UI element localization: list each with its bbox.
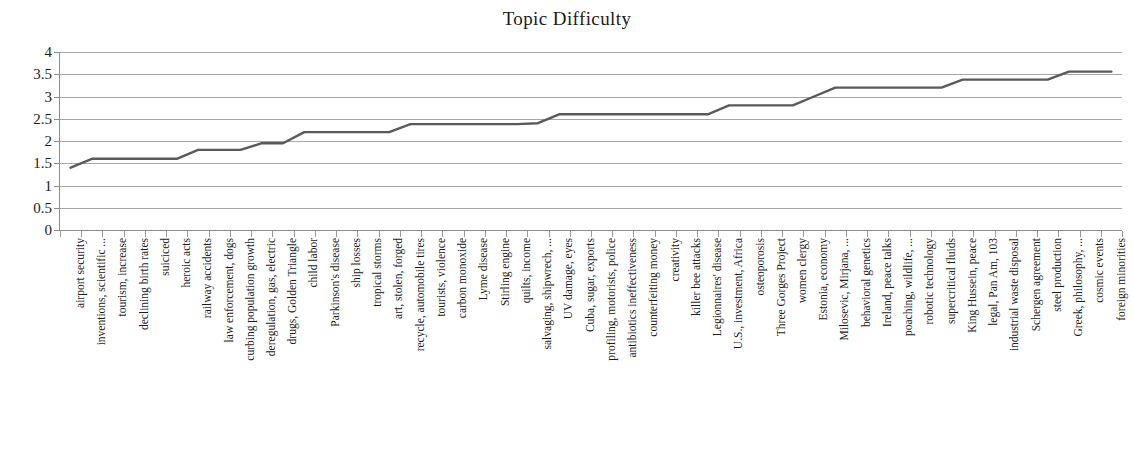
y-tick-mark [54,74,60,75]
x-tick-mark [527,231,528,237]
x-tick-mark [973,231,974,237]
y-tick-label: 0.5 [33,200,52,215]
y-tick-mark [54,119,60,120]
x-tick-mark [336,231,337,237]
x-tick-label: tourism, increase [117,238,129,317]
y-tick-label: 2 [45,134,53,149]
y-tick-mark [54,230,60,231]
x-tick-mark [1122,231,1123,237]
x-tick-label: airport security [75,238,87,308]
x-tick-label: Lyme disease [478,238,490,300]
x-tick-label: deregulation, gas, electric [266,238,278,356]
x-tick-mark [549,231,550,237]
x-tick-label: foreign minorities [1116,238,1128,321]
x-tick-mark [995,231,996,237]
y-tick-label: 1 [45,178,53,193]
x-tick-mark [400,231,401,237]
x-tick-mark [803,231,804,237]
x-tick-mark [315,231,316,237]
x-tick-label: legal, Pan Am, 103 [988,238,1000,326]
plot-area [60,52,1122,230]
x-tick-label: salvaging, shipwrech, ... [542,238,554,349]
x-tick-label: Schergen agreement [1031,238,1043,331]
x-tick-mark [102,231,103,237]
x-tick-label: suiciced [160,238,172,276]
x-tick-label: supercritical fluids [946,238,958,324]
x-tick-label: Stirling engine [500,238,512,306]
y-tick-mark [54,97,60,98]
x-tick-mark [888,231,889,237]
x-axis-tick-labels: airport securityinventions, scientific .… [60,238,1122,448]
chart-title: Topic Difficulty [0,8,1134,30]
x-tick-label: Ireland, peace talks [882,238,894,327]
x-tick-label: U.S., investment, Africa [733,238,745,349]
x-tick-label: robotic technology [924,238,936,325]
x-tick-mark [81,231,82,237]
x-tick-mark [230,231,231,237]
x-tick-label: tropical storms [372,238,384,307]
x-tick-label: King Hussein, peace [967,238,979,333]
x-tick-mark [761,231,762,237]
x-tick-label: child labor [308,238,320,288]
x-tick-label: recycle, automobile tires [415,238,427,351]
x-tick-mark [867,231,868,237]
x-tick-mark [209,231,210,237]
x-tick-label: counterfeiting money [648,238,660,337]
x-tick-label: inventions, scientific ... [96,238,108,345]
x-tick-label: Three Gorges Project [776,238,788,336]
x-tick-mark [931,231,932,237]
x-tick-mark [379,231,380,237]
x-tick-mark [421,231,422,237]
x-tick-mark [1080,231,1081,237]
x-tick-label: UV damage, eyes [563,238,575,319]
x-tick-label: drugs, Golden Triangle [287,238,299,344]
x-tick-mark [718,231,719,237]
x-tick-label: poaching, wildlife, ... [903,238,915,336]
x-tick-label: cosmic events [1094,238,1106,303]
y-tick-label: 1.5 [33,156,52,171]
x-tick-label: Estonia, economy [818,238,830,320]
x-tick-mark [1037,231,1038,237]
x-tick-label: profiling, motorists, police [606,238,618,361]
x-tick-mark [633,231,634,237]
x-tick-label: art, stolen, forged [393,238,405,319]
x-tick-label: tourists, violence [436,238,448,317]
x-tick-mark [676,231,677,237]
x-tick-label: Greek, philosophy, ... [1073,238,1085,337]
x-tick-label: killer bee attacks [691,238,703,316]
x-tick-label: railway accidents [202,238,214,318]
x-tick-label: carbon monoxide [457,238,469,318]
x-tick-label: women clergy [797,238,809,303]
chart-container: Topic Difficulty 00.511.522.533.54 airpo… [0,0,1134,450]
x-tick-label: quilts, income [521,238,533,303]
x-tick-label: steel production [1052,238,1064,312]
x-tick-label: antibiotics ineffectiveness [627,238,639,358]
series-line-chart [60,52,1122,230]
y-tick-label: 2.5 [33,111,52,126]
x-tick-label: creativity [670,238,682,281]
x-tick-mark [1101,231,1102,237]
x-tick-mark [357,231,358,237]
x-tick-label: Legionnaires' disease [712,238,724,336]
y-tick-label: 0 [45,223,53,238]
y-tick-label: 4 [45,45,53,60]
x-tick-mark [910,231,911,237]
x-tick-label: Milosevic, Mirjana, ... [839,238,851,341]
x-tick-mark [846,231,847,237]
y-tick-mark [54,186,60,187]
x-axis-tick-marks [60,231,1122,237]
x-tick-mark [655,231,656,237]
x-tick-mark [485,231,486,237]
x-tick-label: osteoporosis [755,238,767,296]
y-tick-mark [54,141,60,142]
x-tick-mark [124,231,125,237]
x-tick-mark [506,231,507,237]
x-tick-label: Cuba, sugar, exports [585,238,597,332]
x-tick-mark [782,231,783,237]
x-tick-mark [272,231,273,237]
x-tick-label: heroic acts [181,238,193,288]
x-tick-mark [442,231,443,237]
x-tick-label: law enforcement, dogs [224,238,236,342]
y-axis-tick-labels: 00.511.522.533.54 [0,52,52,230]
x-tick-label: curbing population growth [245,238,257,361]
